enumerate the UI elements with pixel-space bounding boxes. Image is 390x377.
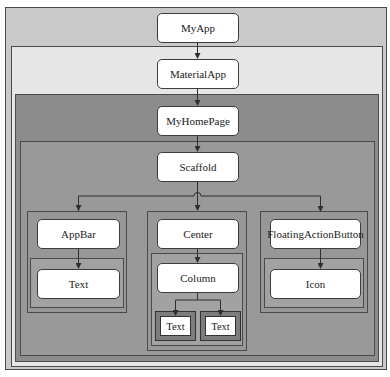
node-fab-icon: Icon — [270, 269, 361, 299]
node-column: Column — [157, 263, 239, 293]
node-appbar-text: Text — [37, 269, 120, 299]
node-myapp: MyApp — [157, 13, 239, 43]
node-column-text-2: Text — [205, 316, 236, 336]
node-appbar: AppBar — [37, 219, 120, 249]
node-column-text-1: Text — [160, 316, 191, 336]
node-myhomepage: MyHomePage — [157, 106, 239, 136]
node-center: Center — [157, 219, 239, 249]
node-fab: FloatingActionButton — [270, 219, 361, 249]
node-scaffold: Scaffold — [157, 152, 239, 182]
node-materialapp: MaterialApp — [157, 59, 239, 89]
